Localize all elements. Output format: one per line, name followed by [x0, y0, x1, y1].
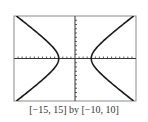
window-caption: [−15, 15] by [−10, 10]	[0, 104, 148, 115]
